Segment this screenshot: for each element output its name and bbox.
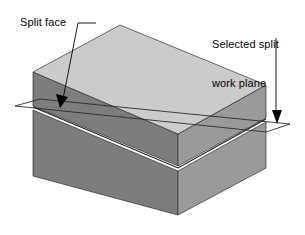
work-plane-label-line-1: Selected split	[212, 38, 279, 51]
diagram-canvas: Split face Selected split work plane	[0, 0, 305, 235]
split-face-label: Split face	[20, 16, 66, 29]
work-plane-label: Selected split work plane	[212, 12, 279, 116]
work-plane-label-line-2: work plane	[212, 77, 279, 90]
